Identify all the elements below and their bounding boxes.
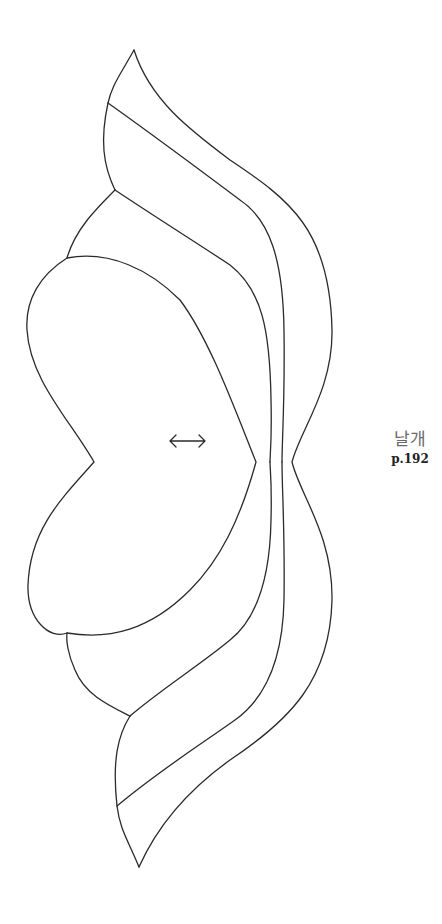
feather-band-top-2: [115, 190, 271, 462]
shoulder-top: [67, 190, 115, 258]
pattern-label: 날개 p.192: [386, 428, 434, 468]
feather-band-bottom-1: [117, 462, 284, 806]
feather-band-top-1: [108, 103, 284, 462]
pattern-title: 날개: [386, 428, 434, 450]
page-reference: p.192: [386, 450, 434, 468]
wing-pattern: [0, 0, 442, 924]
top-tip-left-edge: [104, 50, 134, 190]
outer-wing-outline: [134, 50, 332, 867]
grain-arrow-icon: [168, 431, 208, 451]
heart-piece: [27, 256, 256, 635]
shoulder-bottom: [67, 633, 130, 716]
feather-band-bottom-2: [130, 462, 271, 716]
